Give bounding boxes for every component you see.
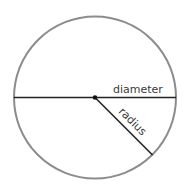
circle-diagram: diameter radius: [0, 0, 184, 190]
diameter-label: diameter: [113, 83, 163, 96]
center-point: [93, 95, 98, 100]
radius-label: radius: [116, 105, 149, 138]
